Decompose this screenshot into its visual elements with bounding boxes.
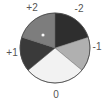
slice-label: 0 (53, 89, 59, 100)
marker-dot (41, 33, 44, 36)
slice-label: -2 (75, 3, 84, 14)
slice-label: +1 (6, 47, 18, 58)
slice-label: -1 (93, 41, 102, 52)
slice-label: +2 (26, 2, 38, 13)
pie-chart: -2-10+1+2 (0, 0, 107, 101)
